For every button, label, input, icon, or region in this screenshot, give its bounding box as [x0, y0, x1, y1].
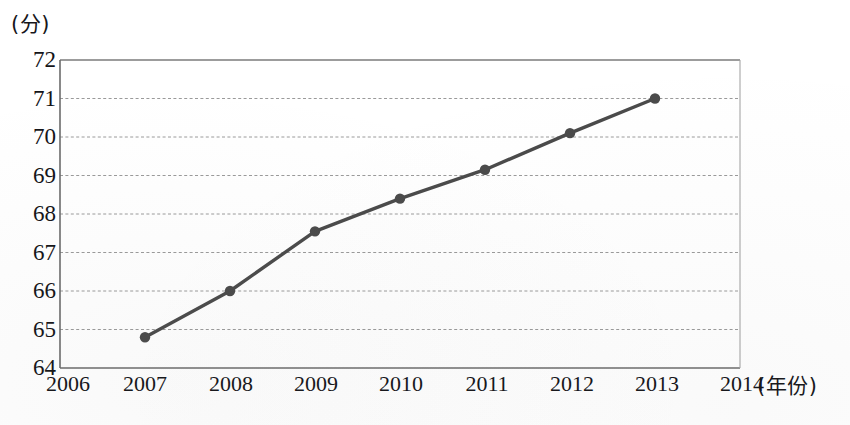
- data-series-line: [145, 99, 655, 338]
- gridlines: [60, 99, 740, 330]
- data-point-2009: [310, 226, 320, 236]
- data-point-2013: [650, 93, 660, 103]
- data-point-2008: [225, 286, 235, 296]
- data-point-2010: [395, 193, 405, 203]
- data-point-2011: [480, 165, 490, 175]
- line-chart: (分) (年份) 72 71 70 69 68 67 66 65 64 2006…: [0, 0, 850, 425]
- data-point-2012: [565, 128, 575, 138]
- data-point-markers: [140, 93, 660, 342]
- plot-area: [0, 0, 850, 425]
- data-point-2007: [140, 332, 150, 342]
